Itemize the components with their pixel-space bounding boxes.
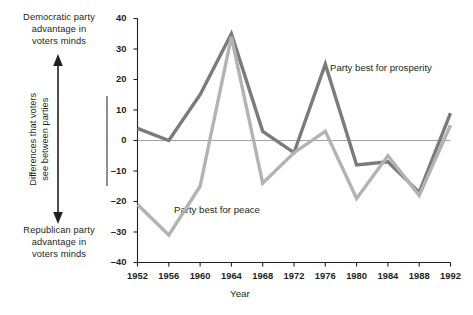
y-tick-label: 40 — [101, 12, 127, 23]
vertical-double-arrow-icon — [53, 54, 63, 224]
y-tick-label: 30 — [101, 43, 127, 54]
y-tick-label: –30 — [101, 226, 127, 237]
y-tick-label: –10 — [101, 165, 127, 176]
y-tick-label: –20 — [101, 195, 127, 206]
y-tick-label: 10 — [101, 104, 127, 115]
chart-plot-area — [0, 0, 473, 315]
series-line-prosperity — [138, 34, 451, 193]
y-tick-label: 0 — [101, 134, 127, 145]
x-tick-label: 1992 — [431, 270, 471, 281]
y-tick-label: 20 — [101, 73, 127, 84]
chart-series-lines — [138, 34, 451, 235]
y-tick-label: –40 — [101, 256, 127, 267]
series-line-peace — [138, 37, 451, 235]
chart-axes — [134, 19, 451, 267]
chart-figure: Democratic party advantage in voters min… — [0, 0, 473, 315]
